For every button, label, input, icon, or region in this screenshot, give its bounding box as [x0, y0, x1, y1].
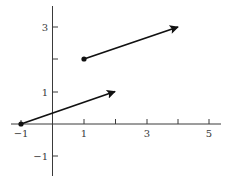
x-label-1: 1 [81, 128, 87, 139]
vector-a [18, 92, 115, 127]
y-tick-labels: 3 1 −1 [33, 22, 48, 162]
x-ticks [21, 119, 209, 124]
vector-diagram: −1 1 3 5 3 1 −1 [0, 0, 241, 184]
x-label-5: 5 [206, 128, 212, 139]
x-label-neg1: −1 [14, 128, 29, 139]
y-ticks [53, 27, 59, 156]
vector-a-tail-dot [18, 121, 23, 126]
y-label-3: 3 [42, 22, 48, 33]
vector-a-shaft [21, 92, 115, 125]
vector-b-tail-dot [81, 56, 86, 61]
y-label-1: 1 [42, 87, 48, 98]
vector-b [81, 27, 178, 62]
y-label-neg1: −1 [33, 151, 48, 162]
x-label-3: 3 [144, 128, 150, 139]
vector-b-shaft [84, 27, 178, 59]
x-tick-labels: −1 1 3 5 [14, 128, 213, 139]
